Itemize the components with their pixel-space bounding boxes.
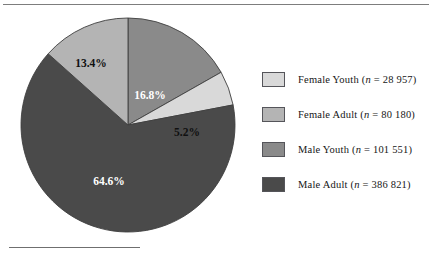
legend-label-female-adult: Female Adult (n = 80 180) [298,109,415,120]
pie-slice-label-male-youth: 16.8% [134,89,166,101]
legend-n-symbol-male-youth: n [356,144,361,155]
pie-chart: 16.8%5.2%64.6%13.4% [19,16,237,234]
legend-item-female-youth[interactable]: Female Youth (n = 28 957) [262,62,430,97]
legend-item-female-adult[interactable]: Female Adult (n = 80 180) [262,97,430,132]
pie-slice-label-male-adult: 64.6% [93,175,125,187]
pie-chart-figure: 16.8%5.2%64.6%13.4% Female Youth (n = 28… [0,0,431,257]
legend: Female Youth (n = 28 957)Female Adult (n… [262,62,430,202]
legend-swatch-female-youth [262,72,285,87]
legend-item-male-youth[interactable]: Male Youth (n = 101 551) [262,132,430,167]
legend-item-male-adult[interactable]: Male Adult (n = 386 821) [262,167,430,202]
legend-label-female-youth: Female Youth (n = 28 957) [298,74,417,85]
legend-label-male-adult: Male Adult (n = 386 821) [298,179,411,190]
top-horizontal-rule [3,4,429,5]
legend-n-symbol-female-adult: n [364,109,369,120]
legend-swatch-male-youth [262,142,285,157]
legend-n-symbol-male-adult: n [354,179,359,190]
pie-slice-label-female-adult: 13.4% [75,57,107,69]
legend-swatch-female-adult [262,107,285,122]
legend-label-male-youth: Male Youth (n = 101 551) [298,144,412,155]
footnote-rule [9,247,140,248]
pie-chart-svg: 16.8%5.2%64.6%13.4% [19,16,237,234]
legend-swatch-male-adult [262,177,285,192]
pie-slice-group [21,18,235,232]
pie-slice-label-female-youth: 5.2% [174,126,200,138]
legend-n-symbol-female-youth: n [365,74,370,85]
